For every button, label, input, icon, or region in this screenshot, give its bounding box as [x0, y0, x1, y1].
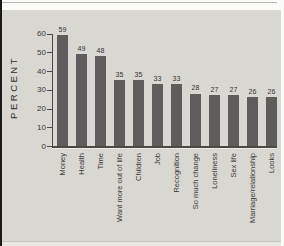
category-label: Children [134, 153, 143, 181]
category-label: So much change [191, 153, 200, 209]
bar-value-label: 59 [55, 26, 71, 33]
y-axis-line [52, 34, 53, 148]
scanned-figure-page: PERCENT 010203040506059Money49Health48Ti… [0, 0, 284, 246]
bar-value-label: 35 [112, 71, 128, 78]
bar [247, 97, 258, 146]
category-label: Loneliness [210, 153, 219, 189]
bar-value-label: 27 [207, 86, 223, 93]
bar-value-label: 27 [226, 86, 242, 93]
bar-value-label: 26 [245, 88, 261, 95]
bar [190, 94, 201, 147]
category-label: Marriage/relationship [248, 153, 257, 223]
category-label: Want more out of life [115, 153, 124, 222]
bar [76, 54, 87, 146]
y-tick-mark [47, 127, 52, 128]
y-tick-mark [47, 90, 52, 91]
bar [228, 95, 239, 146]
page-bottom-strip [2, 242, 281, 246]
bar-value-label: 48 [93, 47, 109, 54]
bar [114, 80, 125, 146]
bar-value-label: 33 [169, 75, 185, 82]
y-tick-label: 60 [25, 29, 46, 38]
y-tick-label: 0 [25, 142, 46, 151]
chart-panel: PERCENT 010203040506059Money49Health48Ti… [2, 10, 281, 242]
bar [209, 95, 220, 146]
page-top-edge-line [2, 2, 277, 3]
bar [266, 97, 277, 146]
y-tick-label: 10 [25, 123, 46, 132]
bar [57, 35, 68, 146]
category-label: Job [153, 153, 162, 165]
category-label: Looks [267, 153, 276, 173]
bar-value-label: 33 [150, 75, 166, 82]
y-tick-mark [47, 34, 52, 35]
category-label: Money [58, 153, 67, 176]
bar-value-label: 26 [264, 88, 280, 95]
y-tick-label: 40 [25, 67, 46, 76]
bar-chart: 010203040506059Money49Health48Time35Want… [2, 10, 281, 241]
y-tick-mark [47, 109, 52, 110]
bar-value-label: 28 [188, 84, 204, 91]
y-tick-label: 50 [25, 48, 46, 57]
bar [133, 80, 144, 146]
x-axis-highlight-line [52, 148, 277, 149]
bar-value-label: 49 [74, 45, 90, 52]
bar [152, 84, 163, 146]
y-tick-label: 30 [25, 85, 46, 94]
y-tick-mark [47, 146, 52, 147]
category-label: Time [96, 153, 105, 169]
category-label: Health [77, 153, 86, 175]
y-tick-mark [47, 71, 52, 72]
category-label: Sex life [229, 153, 238, 178]
bar-value-label: 35 [131, 71, 147, 78]
y-tick-mark [47, 52, 52, 53]
bar [171, 84, 182, 146]
bar [95, 56, 106, 146]
category-label: Recognition [172, 153, 181, 193]
y-tick-label: 20 [25, 104, 46, 113]
